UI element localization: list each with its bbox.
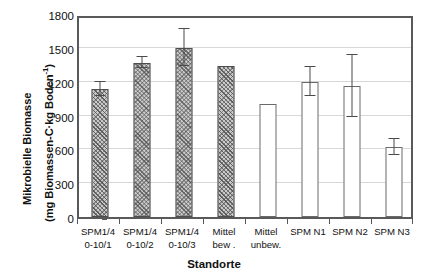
error-bar-cap-bottom — [179, 65, 190, 66]
bar — [92, 89, 109, 217]
bar-slot — [373, 18, 415, 217]
error-bar-cap-bottom — [389, 154, 400, 155]
x-axis-tick-label: SPM N3 — [364, 226, 420, 239]
x-axis-tick-mark — [77, 219, 78, 224]
y-axis-tick-label: 1500 — [36, 44, 74, 56]
x-axis-tick-mark — [161, 219, 162, 224]
error-bar-cap-bottom — [305, 95, 316, 96]
x-axis-tick-mark — [412, 219, 413, 224]
bar-slot — [289, 18, 331, 217]
error-bar-line — [100, 82, 101, 96]
x-axis-tick-label-line: SPM N3 — [364, 226, 420, 239]
x-axis-tick-marks — [77, 219, 413, 225]
bar — [218, 66, 235, 217]
bar-slot — [163, 18, 205, 217]
x-axis-tick-mark — [203, 219, 204, 224]
y-axis-tick-label: 900 — [36, 112, 74, 124]
y-axis-tick-label: 300 — [36, 179, 74, 191]
error-bar-cap-top — [347, 54, 358, 55]
y-axis-tick-labels: 0300600900120015001800 — [30, 16, 74, 219]
x-axis-tick-labels: SPM1/40-10/1SPM1/40-10/2SPM1/40-10/3Mitt… — [62, 226, 428, 258]
y-axis-tick-label: 600 — [36, 145, 74, 157]
x-axis-tick-mark — [329, 219, 330, 224]
error-bar-cap-top — [389, 138, 400, 139]
error-bar-cap-top — [137, 56, 148, 57]
x-axis-tick-mark — [119, 219, 120, 224]
bar — [386, 147, 403, 217]
plot-area — [77, 16, 413, 219]
bar — [260, 104, 277, 217]
error-bar-line — [394, 139, 395, 155]
error-bar-line — [184, 29, 185, 66]
chart-figure: Mikrobielle Biomasse (mg Biomassen-C·kg … — [0, 0, 428, 276]
y-axis-tick-label: 1200 — [36, 78, 74, 90]
error-bar-cap-bottom — [95, 95, 106, 96]
error-bar-cap-top — [95, 81, 106, 82]
error-bar-cap-top — [179, 28, 190, 29]
error-bar-cap-bottom — [137, 67, 148, 68]
x-axis-title: Standorte — [0, 258, 428, 270]
bar — [176, 48, 193, 217]
bar — [134, 63, 151, 218]
bar-slot — [205, 18, 247, 217]
y-axis-tick-label: 1800 — [36, 10, 74, 22]
y-axis-tick-label: 0 — [36, 213, 74, 225]
bar — [302, 82, 319, 217]
bar-slot — [121, 18, 163, 217]
bar-slot — [331, 18, 373, 217]
bar-slot — [79, 18, 121, 217]
error-bar-line — [310, 67, 311, 96]
bar-slot — [247, 18, 289, 217]
x-axis-tick-mark — [245, 219, 246, 224]
error-bar-cap-bottom — [347, 116, 358, 117]
x-axis-tick-mark — [287, 219, 288, 224]
x-axis-tick-label-line: unbew. — [238, 239, 294, 252]
x-axis-tick-mark — [371, 219, 372, 224]
error-bar-cap-top — [305, 66, 316, 67]
error-bar-line — [352, 55, 353, 117]
bars-group — [79, 18, 411, 217]
